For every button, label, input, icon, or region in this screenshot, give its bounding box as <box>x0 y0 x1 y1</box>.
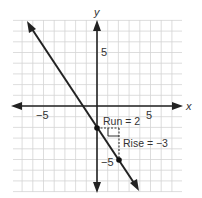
x-axis-label: x <box>185 100 192 112</box>
run-annotation: Run = 2 <box>103 115 140 127</box>
coordinate-plane: x y −5 5 5 −5 Run = 2 Rise = −3 <box>0 0 202 198</box>
y-tick-neg5: −5 <box>101 156 114 168</box>
y-axis-up-arrow-icon <box>93 20 101 31</box>
point-2-neg5 <box>116 157 122 163</box>
x-axis-right-arrow-icon <box>172 102 183 110</box>
x-tick-pos5: 5 <box>146 109 152 121</box>
point-y-intercept <box>94 125 100 131</box>
x-tick-neg5: −5 <box>36 109 49 121</box>
y-axis-label: y <box>93 6 101 18</box>
y-tick-pos5: 5 <box>101 46 107 58</box>
x-axis-left-arrow-icon <box>11 102 22 110</box>
rise-annotation: Rise = −3 <box>123 137 168 149</box>
right-angle-marker <box>108 128 119 136</box>
